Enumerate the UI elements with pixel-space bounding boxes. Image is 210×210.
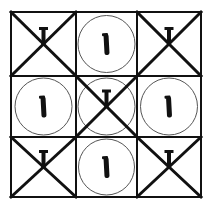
cell-r2-c0[interactable] xyxy=(11,137,76,197)
cell-r2-c1[interactable] xyxy=(79,139,135,195)
cells-layer xyxy=(11,12,201,197)
cell-r0-c0[interactable] xyxy=(11,12,76,76)
nail-icon xyxy=(102,33,110,55)
nail-icon xyxy=(164,95,172,117)
cell-r1-c2[interactable] xyxy=(141,78,198,135)
nail-icon xyxy=(102,156,110,178)
cell-r1-c1[interactable] xyxy=(76,76,137,137)
nail-icon xyxy=(39,95,47,117)
cell-r1-c0[interactable] xyxy=(15,78,72,135)
cell-r2-c2[interactable] xyxy=(137,137,201,197)
cell-r0-c2[interactable] xyxy=(137,12,201,76)
cell-r0-c1[interactable] xyxy=(78,16,135,73)
puzzle-board xyxy=(0,0,210,210)
